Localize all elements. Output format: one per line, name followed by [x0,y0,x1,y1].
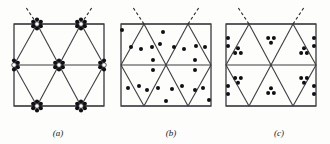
panel-label-c: (c) [274,128,284,138]
rosette-dot [79,100,83,104]
scatter-dot [156,86,160,90]
rosette-dot [31,20,35,24]
rosette-dot [53,65,57,69]
rosette-dot [53,61,57,65]
scatter-dot [193,88,197,92]
rosette-dot [61,61,65,65]
rosette-open-centre [79,22,84,27]
scatter-dot [151,58,155,62]
rosette-dot [102,67,106,71]
rosette-dot [98,65,102,69]
scatter-dot [201,86,205,90]
triplet-dot [302,81,306,85]
rosette-dot [57,59,61,63]
triplet-dot [233,51,237,55]
triplet-dot [266,91,270,95]
scatter-dot [207,98,211,102]
rosette-dot [35,26,39,30]
rosette-dot [75,106,79,110]
scatter-dot [203,45,207,49]
triplet-dot [305,76,309,80]
scatter-dot [164,99,168,103]
rosette-dot [75,24,79,28]
edge-dot [312,36,316,40]
panel-label-a: (a) [53,128,64,138]
scatter-dot [139,47,143,51]
rosette-dot [39,102,43,106]
rosette-dot [83,24,87,28]
rosette-dot [35,100,39,104]
triplet-dot [299,76,303,80]
edge-dot [312,92,316,96]
scatter-dot [126,86,130,90]
rosette-dot [12,59,16,63]
scatter-dot [193,58,197,62]
rosette-open-centre [35,22,40,27]
triplet-dot [272,91,276,95]
edge-dot [226,44,230,48]
triplet-dot [236,81,240,85]
edge-dot [312,44,316,48]
rosette-dot [39,20,43,24]
triplet-dot [302,46,306,50]
triplet-dot [266,36,270,40]
rosette-dot [31,24,35,28]
scatter-dot [158,42,162,46]
rosette-dot [39,24,43,28]
rosette-open-centre [35,104,40,109]
rosette-dot [79,26,83,30]
rosette-open-centre [102,63,107,68]
scatter-dot [182,47,186,51]
panel-label-b: (b) [166,128,177,138]
triplet-dot [233,76,237,80]
rosette-dot [31,102,35,106]
triplet-dot [299,51,303,55]
triplet-dot [272,36,276,40]
scatter-dot [137,84,141,88]
scatter-dot [145,88,149,92]
rosette-dot [16,65,20,69]
rosette-dot [57,67,61,71]
rosette-dot [79,18,83,22]
rosette-dot [35,18,39,22]
edge-dot [226,36,230,40]
rosette-dot [83,102,87,106]
rosette-dot [39,106,43,110]
edge-dot [226,84,230,88]
scatter-dot [170,87,174,91]
triplet-dot [239,51,243,55]
figure-root: (a)(b)(c) [0,0,330,144]
rosette-dot [102,59,106,63]
edge-dot [312,84,316,88]
triplet-dot [269,41,273,45]
rosette-open-centre [79,104,84,109]
scatter-dot [194,44,198,48]
scatter-dot [172,45,176,49]
scatter-dot [193,68,197,72]
scatter-dot [180,84,184,88]
triplet-dot [239,76,243,80]
rosette-open-centre [57,63,62,68]
rosette-dot [16,61,20,65]
triplet-dot [236,46,240,50]
scatter-dot [129,45,133,49]
rosette-dot [31,106,35,110]
triplet-dot [305,51,309,55]
rosette-dot [35,108,39,112]
scatter-dot [120,28,124,32]
scatter-dot [150,45,154,49]
rosette-dot [75,102,79,106]
rosette-dot [79,108,83,112]
triplet-dot [269,86,273,90]
rosette-dot [12,67,16,71]
rosette-dot [75,20,79,24]
lattice-figure-canvas: (a)(b)(c) [0,0,330,144]
figure-background [0,0,330,144]
rosette-open-centre [12,63,17,68]
rosette-dot [98,61,102,65]
rosette-dot [83,20,87,24]
edge-dot [226,92,230,96]
scatter-dot [161,30,165,34]
rosette-dot [83,106,87,110]
rosette-dot [61,65,65,69]
